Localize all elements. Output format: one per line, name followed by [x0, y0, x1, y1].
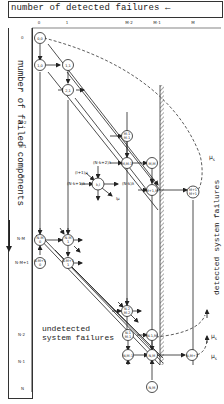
- svg-text:M,M: M,M: [148, 162, 155, 166]
- node-n-mbottom: N,M: [147, 382, 158, 393]
- node-m-1-m-1: M-1M-1: [122, 131, 133, 142]
- node-n-m1: N,M+1: [186, 350, 198, 361]
- svg-text:M-1: M-1: [124, 136, 131, 140]
- node-n-m-1: N-M1: [63, 235, 74, 246]
- node-n-1-m-1: N-1M-1: [123, 330, 134, 341]
- node-n-1-m: N-1,M: [147, 330, 158, 341]
- svg-text:N,M-1: N,M-1: [123, 354, 133, 358]
- node-n-m: N,M: [147, 350, 158, 361]
- hatched-wall: [160, 85, 164, 365]
- svg-text:0,0: 0,0: [37, 37, 43, 41]
- svg-text:2,1: 2,1: [65, 89, 71, 93]
- node-1-1: 1,1: [63, 60, 74, 71]
- svg-text:N-1,M: N-1,M: [147, 334, 157, 338]
- svg-text:1,1: 1,1: [65, 64, 71, 68]
- svg-text:0: 0: [39, 240, 41, 244]
- svg-text:1,0: 1,0: [37, 64, 43, 68]
- svg-text:M-1: M-1: [125, 335, 132, 339]
- svg-text:N,M: N,M: [149, 354, 156, 358]
- node-0-0: 0,0: [35, 33, 46, 44]
- node-m1-m1: M+1M+1: [187, 186, 199, 198]
- markov-state-diagram: number of detected failures ← 0 1 M-2 M-…: [0, 0, 224, 404]
- node-n-2-m-2: N-2M-2: [122, 306, 133, 317]
- svg-text:1: 1: [67, 240, 69, 244]
- node-n-m-1b: N,M-1: [123, 350, 134, 361]
- svg-text:k,l: k,l: [96, 183, 100, 187]
- svg-text:0: 0: [39, 263, 41, 267]
- node-1-0: 1,0: [35, 60, 46, 71]
- node-n-m-0: N-M0: [35, 235, 46, 246]
- node-2-1: 2,1: [63, 85, 74, 96]
- node-m1-m: M+1,M: [146, 185, 158, 196]
- svg-text:M+1: M+1: [189, 192, 197, 196]
- svg-text:M-2: M-2: [124, 311, 131, 315]
- svg-text:M+1,M: M+1,M: [146, 189, 158, 193]
- node-m-m: M,M: [147, 158, 158, 169]
- node-m-m-1: M,M-1: [122, 158, 133, 169]
- node-n-m1-1: N-M+11: [62, 258, 74, 269]
- svg-text:M,M-1: M,M-1: [122, 162, 133, 166]
- node-generic-k-l: k,l: [92, 178, 104, 190]
- svg-text:N,M+1: N,M+1: [186, 354, 198, 358]
- node-n-m1-0: N-M+10: [34, 258, 46, 269]
- svg-text:N,M: N,M: [149, 386, 156, 390]
- diagram-graphics: 0,0 1,0 1,1 2,1 M-1M-1 M,M-1 M,M M+1,M M…: [0, 0, 224, 404]
- svg-text:1: 1: [67, 263, 69, 267]
